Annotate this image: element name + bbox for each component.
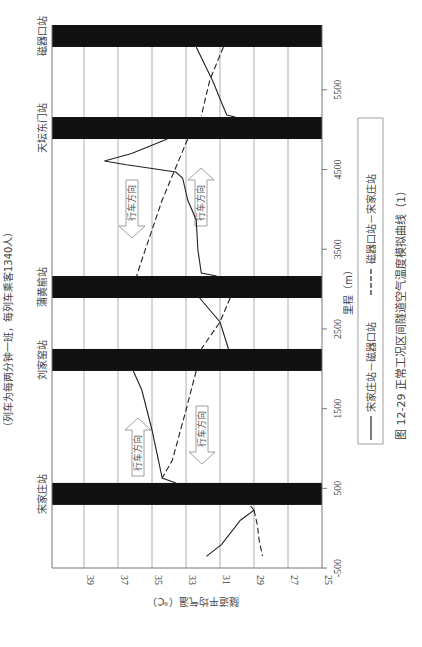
mileage-tick-label: 5500 xyxy=(332,80,343,100)
station-label: 蒲黄榆站 xyxy=(36,267,48,307)
station-bar xyxy=(52,349,322,371)
mileage-tick-label: -500 xyxy=(332,559,343,577)
mileage-tick-label: 1500 xyxy=(332,399,343,419)
y-axis-label: 隧道平均气温（℃） xyxy=(147,596,238,608)
mileage-tick-label: 500 xyxy=(332,481,343,496)
temperature-tick-label: 31 xyxy=(221,575,232,585)
legend-dashed-label: 磁器口站－宋家庄站 xyxy=(365,174,377,264)
chart-note: （列车为每两分钟一班，每列车乘客1340人） xyxy=(2,227,14,432)
station-label: 宋家庄站 xyxy=(36,474,48,514)
station-bar xyxy=(52,483,322,505)
series-line-dashed xyxy=(254,510,263,556)
station-label: 天坛东门站 xyxy=(36,103,48,153)
mileage-tick-label: 4500 xyxy=(332,160,343,180)
series-line-solid xyxy=(206,506,254,556)
temperature-tick-label: 37 xyxy=(119,575,130,585)
station-bar xyxy=(52,25,322,47)
direction-arrows: 行车方向行车方向行车方向行车方向 xyxy=(119,168,215,476)
x-axis-label: 里程（m） xyxy=(343,265,354,315)
temperature-tick-label: 29 xyxy=(255,575,266,585)
mileage-tick-label: 2500 xyxy=(332,319,343,339)
series-line-dashed xyxy=(137,139,188,276)
station-labels: 宋家庄站刘家窑站蒲黄榆站天坛东门站磁器口站 xyxy=(36,16,48,514)
temperature-tick-label: 39 xyxy=(85,575,96,585)
station-bars xyxy=(52,25,322,505)
series-line-solid xyxy=(196,47,235,117)
direction-label: 行车方向 xyxy=(196,411,207,447)
direction-arrow-down-icon: 行车方向 xyxy=(189,406,215,464)
mileage-tick-label: 3500 xyxy=(332,239,343,259)
legend: 宋家庄站－磁器口站 磁器口站－宋家庄站 xyxy=(358,118,383,444)
direction-label: 行车方向 xyxy=(195,185,206,221)
series-line-solid xyxy=(200,298,229,349)
station-bar xyxy=(52,117,322,139)
direction-label: 行车方向 xyxy=(132,435,143,471)
legend-solid-label: 宋家庄站－磁器口站 xyxy=(365,322,377,412)
temperature-tick-label: 33 xyxy=(187,575,198,585)
direction-arrow-up-icon: 行车方向 xyxy=(188,168,214,226)
temperature-chart: （列车为每两分钟一班，每列车乘客1340人） 宋家庄站刘家窑站蒲黄榆站天坛东门站… xyxy=(0,0,422,647)
direction-label: 行车方向 xyxy=(126,185,137,221)
station-label: 刘家窑站 xyxy=(36,340,48,380)
direction-arrow-up-icon: 行车方向 xyxy=(125,418,151,476)
temperature-tick-label: 27 xyxy=(289,575,300,585)
series-line-dashed xyxy=(162,371,196,478)
station-label: 磁器口站 xyxy=(36,16,48,56)
station-bar xyxy=(52,276,322,298)
temperature-tick-label: 35 xyxy=(153,575,164,585)
figure-caption: 图 12-29 正常工况区间隧道空气温度模拟曲线（1） xyxy=(394,185,408,440)
direction-arrow-down-icon: 行车方向 xyxy=(119,180,145,238)
